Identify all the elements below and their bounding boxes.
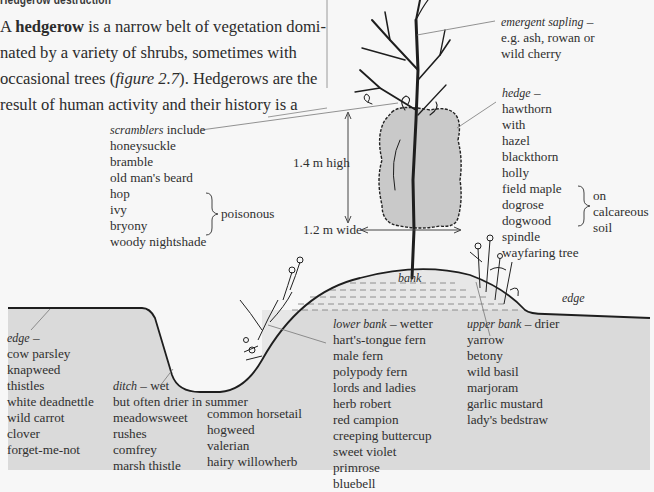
bank-label: bank: [398, 270, 421, 286]
ditch-item: common horsetail: [207, 406, 302, 422]
upper-bank-item: yarrow: [467, 332, 559, 348]
bank-text: bank: [398, 271, 421, 285]
lower-bank-item: red campion: [333, 412, 433, 428]
lower-bank-item: herb robert: [333, 396, 433, 412]
scrambler-item: woody nightshade: [110, 234, 206, 250]
edge-right-label: edge: [562, 290, 585, 306]
upper-bank-item: lady's bedstraw: [467, 412, 559, 428]
scrambler-item: bryony: [110, 218, 206, 234]
dash: –: [531, 85, 541, 100]
ditch-title: ditch: [113, 379, 137, 393]
dash: –: [30, 330, 40, 345]
upper-bank-title: upper bank: [467, 317, 521, 331]
scrambler-item: hop: [110, 186, 206, 202]
note-line: soil: [593, 220, 649, 236]
scrambler-item: ivy: [110, 202, 206, 218]
emergent-sapling-title: emergent sapling: [501, 15, 584, 29]
lower-bank-item: polypody fern: [333, 364, 433, 380]
edge-item: wild carrot: [7, 410, 94, 426]
emergent-sapling-line: e.g. ash, rowan or: [501, 30, 595, 46]
lower-bank-item: bluebell: [333, 476, 433, 492]
hedge-item: with: [502, 117, 579, 133]
poisonous-brace: [206, 193, 218, 235]
poisonous-note: poisonous: [221, 206, 275, 222]
edge-item: thistles: [7, 378, 94, 394]
note-line: on: [593, 188, 649, 204]
edge-left-title: edge: [7, 331, 30, 345]
upper-bank-item: garlic mustard: [467, 396, 559, 412]
hedge-item: blackthorn: [502, 149, 579, 165]
scramblers-list: scramblers include honeysuckle bramble o…: [110, 122, 206, 250]
lower-bank-title: lower bank: [333, 317, 387, 331]
width-dimension-label: 1.2 m wide: [303, 222, 362, 238]
lower-bank-suffix: – wetter: [387, 316, 433, 331]
hedge-species-list: hedge – hawthorn with hazel blackthorn h…: [502, 85, 579, 261]
lower-bank-item: male fern: [333, 348, 433, 364]
upper-bank-item: wild basil: [467, 364, 559, 380]
hedge-item: field maple: [502, 181, 579, 197]
figure-frame-bottom: [268, 108, 327, 117]
ditch-col-1: meadowsweet rushes comfrey marsh thistle: [113, 410, 188, 474]
hedge-item: hawthorn: [502, 101, 579, 117]
lower-bank-list: lower bank – wetter hart's-tongue fern m…: [333, 316, 433, 492]
calcareous-note: on calcareous soil: [593, 188, 649, 236]
lower-bank-item: lords and ladies: [333, 380, 433, 396]
lower-bank-item: creeping buttercup: [333, 428, 433, 444]
ditch-item: rushes: [113, 426, 188, 442]
scramblers-suffix: include: [163, 122, 205, 137]
hedge-item: spindle: [502, 229, 579, 245]
hedge-item: hazel: [502, 133, 579, 149]
upper-bank-suffix: – drier: [521, 316, 559, 331]
height-dimension-label: 1.4 m high: [293, 155, 350, 171]
ditch-item: valerian: [207, 438, 302, 454]
upper-bank-item: betony: [467, 348, 559, 364]
scramblers-title: scramblers: [110, 123, 163, 137]
lower-bank-item: primrose: [333, 460, 433, 476]
hedge-title: hedge: [502, 86, 531, 100]
ditch-item: comfrey: [113, 442, 188, 458]
ditch-suffix: – wet: [137, 378, 169, 393]
ditch-item: meadowsweet: [113, 410, 188, 426]
edge-item: forget-me-not: [7, 442, 94, 458]
edge-left-list: edge – cow parsley knapweed thistles whi…: [7, 330, 94, 458]
note-line: calcareous: [593, 204, 649, 220]
hedge-item: wayfaring tree: [502, 245, 579, 261]
upper-bank-list: upper bank – drier yarrow betony wild ba…: [467, 316, 559, 428]
scrambler-item: bramble: [110, 154, 206, 170]
hedge-item: dogwood: [502, 213, 579, 229]
ditch-item: marsh thistle: [113, 458, 188, 474]
edge-right-text: edge: [562, 291, 585, 305]
upper-bank-item: marjoram: [467, 380, 559, 396]
ditch-item: hogweed: [207, 422, 302, 438]
edge-item: white deadnettle: [7, 394, 94, 410]
calcareous-brace: [578, 186, 590, 226]
dash: –: [584, 14, 594, 29]
edge-item: knapweed: [7, 362, 94, 378]
ditch-col-2: common horsetail hogweed valerian hairy …: [207, 406, 302, 470]
scrambler-item: honeysuckle: [110, 138, 206, 154]
edge-item: cow parsley: [7, 346, 94, 362]
hedge-bush: [379, 107, 461, 228]
lower-bank-item: hart's-tongue fern: [333, 332, 433, 348]
emergent-sapling-line: wild cherry: [501, 46, 595, 62]
hedge-item: dogrose: [502, 197, 579, 213]
ditch-item: hairy willowherb: [207, 454, 302, 470]
emergent-sapling-label: emergent sapling – e.g. ash, rowan or wi…: [501, 14, 595, 62]
scrambler-item: old man's beard: [110, 170, 206, 186]
lower-bank-item: sweet violet: [333, 444, 433, 460]
hedge-item: holly: [502, 165, 579, 181]
edge-item: clover: [7, 426, 94, 442]
